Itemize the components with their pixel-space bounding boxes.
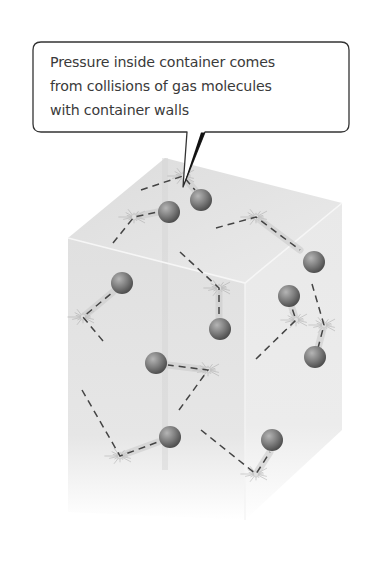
gas-molecule-icon (190, 189, 212, 211)
motion-trail (168, 365, 208, 370)
container-front-face (68, 238, 245, 520)
callout-text: Pressure inside container comes from col… (50, 50, 350, 122)
gas-molecule-icon (111, 272, 133, 294)
callout-line-1: Pressure inside container comes (50, 50, 350, 74)
gas-molecule-icon (145, 352, 167, 374)
gas-molecule-icon (303, 251, 325, 273)
callout-line-2: from collisions of gas molecules (50, 74, 350, 98)
gas-molecule-icon (278, 285, 300, 307)
gas-molecule-icon (158, 201, 180, 223)
gas-molecule-icon (261, 429, 283, 451)
gas-molecule-icon (209, 318, 231, 340)
gas-molecule-icon (304, 346, 326, 368)
gas-molecule-icon (159, 426, 181, 448)
callout-line-3: with container walls (50, 98, 350, 122)
container (68, 158, 342, 520)
